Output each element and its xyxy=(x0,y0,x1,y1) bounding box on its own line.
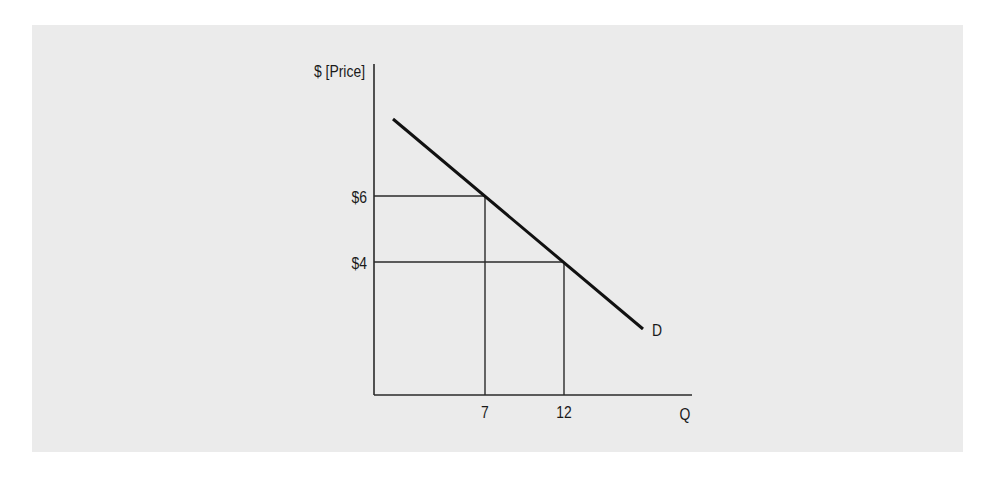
demand-curve xyxy=(393,119,643,329)
x-axis-label: Q xyxy=(680,405,691,424)
y-tick-price-6: $6 xyxy=(352,188,367,207)
y-axis-label: $ [Price] xyxy=(314,62,365,81)
y-tick-price-4: $4 xyxy=(352,254,368,273)
x-tick-qty-7: 7 xyxy=(481,403,489,422)
demand-chart: $ [Price] $6 $4 7 12 Q D xyxy=(0,0,998,477)
demand-curve-label: D xyxy=(652,321,662,340)
x-tick-qty-12: 12 xyxy=(556,403,571,422)
